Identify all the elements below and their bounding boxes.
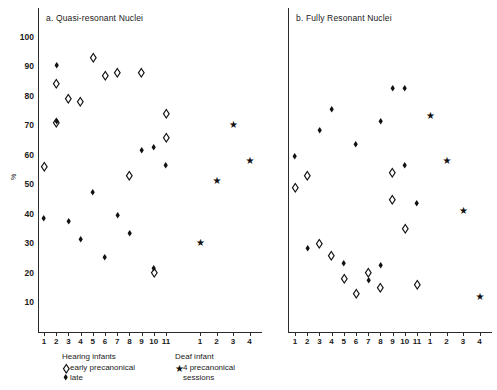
x-tick-mark — [393, 333, 394, 336]
star-icon: ★ — [426, 111, 434, 120]
legend-deaf-line1-row: ★ 4 precanonical — [175, 363, 235, 374]
x-tick-mark — [480, 333, 481, 336]
panel-b-y-axis — [288, 8, 289, 332]
panel-b: b. Fully Resonant Nuclei1234567891011123… — [0, 0, 497, 390]
figure-root: % a. Quasi-resonant Nuclei10203040506070… — [0, 0, 497, 390]
star-icon: ★ — [175, 363, 183, 374]
filled-diamond-icon — [292, 154, 297, 161]
open-diamond-icon — [414, 281, 419, 288]
x-tick-mark — [405, 333, 406, 336]
open-diamond-icon — [390, 196, 395, 203]
x-tick-mark — [463, 333, 464, 336]
x-tick-mark — [295, 333, 296, 336]
filled-diamond-icon — [402, 163, 407, 170]
star-icon: ★ — [476, 292, 484, 301]
x-tick-mark — [447, 333, 448, 336]
star-icon: ★ — [443, 156, 451, 165]
open-diamond-icon — [329, 252, 334, 259]
filled-diamond-icon — [62, 373, 70, 384]
filled-diamond-icon — [329, 107, 334, 114]
x-tick-mark — [368, 333, 369, 336]
open-diamond-icon — [341, 275, 346, 282]
x-tick-mark — [356, 333, 357, 336]
open-diamond-icon — [317, 240, 322, 247]
star-icon: ★ — [459, 206, 467, 215]
legend-deaf-label-line2: sessions — [175, 373, 214, 384]
x-tick-mark — [430, 333, 431, 336]
x-tick-label: 4 — [471, 337, 489, 346]
legend-hearing-late-row: late — [62, 373, 135, 384]
filled-diamond-icon — [317, 128, 322, 135]
x-tick-mark — [319, 333, 320, 336]
x-tick-mark — [307, 333, 308, 336]
filled-diamond-icon — [366, 278, 371, 285]
legend-deaf-heading: Deaf infant — [175, 352, 235, 363]
filled-diamond-icon — [390, 86, 395, 93]
filled-diamond-icon — [341, 261, 346, 268]
legend-hearing-heading: Hearing infants — [62, 352, 135, 363]
filled-diamond-icon — [414, 201, 419, 208]
legend-hearing: Hearing infants early precanonical late — [62, 352, 135, 384]
x-tick-mark — [380, 333, 381, 336]
panel-b-title: b. Fully Resonant Nuclei — [296, 13, 392, 23]
open-diamond-icon — [305, 172, 310, 179]
legend-deaf-line2-row: sessions — [175, 373, 235, 384]
x-tick-label: 2 — [438, 337, 456, 346]
legend-hearing-early-label: early precanonical — [62, 363, 135, 374]
open-diamond-icon — [390, 169, 395, 176]
filled-diamond-icon — [353, 142, 358, 149]
legend-deaf-label-line1: 4 precanonical — [175, 363, 235, 374]
x-tick-label: 3 — [454, 337, 472, 346]
legend-deaf: Deaf infant ★ 4 precanonical sessions — [175, 352, 235, 384]
filled-diamond-icon — [402, 86, 407, 93]
open-diamond-icon — [378, 284, 383, 291]
legend-deaf-heading-row: Deaf infant — [175, 352, 235, 363]
legend-hearing-heading-row: Hearing infants — [62, 352, 135, 363]
open-diamond-icon — [402, 225, 407, 232]
x-tick-mark — [332, 333, 333, 336]
filled-diamond-icon — [378, 263, 383, 270]
x-tick-label: 1 — [421, 337, 439, 346]
x-tick-mark — [417, 333, 418, 336]
filled-diamond-icon — [305, 246, 310, 253]
open-diamond-icon — [62, 363, 70, 374]
open-diamond-icon — [353, 290, 358, 297]
x-tick-mark — [344, 333, 345, 336]
open-diamond-icon — [292, 184, 297, 191]
filled-diamond-icon — [378, 119, 383, 126]
legend-hearing-early-row: early precanonical — [62, 363, 135, 374]
